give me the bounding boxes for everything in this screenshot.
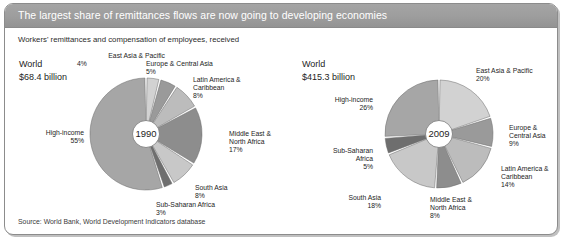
pie-chart-1990: 1990 — [82, 70, 210, 198]
right-world-total: $415.3 billion — [302, 71, 355, 84]
figure-source: Source: World Bank, World Development In… — [18, 218, 205, 225]
left-world-total: $68.4 billion — [19, 71, 67, 84]
left-label-latin-america-caribbean: Latin America & Caribbean 8% — [193, 76, 241, 101]
left-label-sub-saharan-africa: Sub-Saharan Africa 3% — [156, 201, 215, 217]
pie-year-label: 1990 — [135, 128, 156, 139]
pie-year-label: 2009 — [428, 128, 449, 139]
pie-chart-2009: 2009 — [377, 72, 501, 196]
right-label-middle-east-north-africa: Middle East & North Africa 8% — [430, 196, 472, 221]
left-label-europe-central-asia: Europe & Central Asia 5% — [146, 60, 213, 76]
left-world-label: World $68.4 billion — [19, 58, 67, 83]
figure-title: The largest share of remittances flows a… — [18, 9, 387, 21]
right-label-east-asia-pacific: East Asia & Pacific 20% — [476, 67, 533, 83]
figure-frame: The largest share of remittances flows a… — [4, 3, 558, 235]
left-label-high-income: High-income 55% — [11, 129, 84, 145]
left-label-south-asia: South Asia 8% — [195, 184, 228, 200]
right-label-south-asia: South Asia 18% — [321, 194, 381, 210]
left-world-title: World — [19, 58, 67, 71]
right-label-high-income: High-income 26% — [305, 96, 373, 112]
right-world-title: World — [302, 58, 355, 71]
left-label-middle-east-north-africa: Middle East & North Africa 17% — [229, 130, 271, 155]
right-label-europe-central-asia: Europe & Central Asia 9% — [509, 124, 546, 149]
right-label-latin-america-caribbean: Latin America & Caribbean 14% — [501, 165, 549, 190]
right-label-sub-saharan-africa: Sub-Saharan Africa 5% — [305, 147, 373, 172]
figure-subtitle: Workers' remittances and compensation of… — [18, 35, 239, 44]
right-world-label: World $415.3 billion — [302, 58, 355, 83]
